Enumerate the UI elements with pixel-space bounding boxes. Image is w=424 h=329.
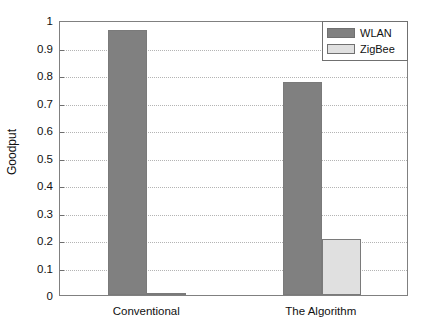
figure-canvas: Goodput 00.10.20.30.40.50.60.70.80.91 Co…	[0, 0, 424, 329]
y-axis-tick-label: 0.9	[0, 43, 53, 55]
y-axis-tick	[60, 187, 64, 188]
y-axis-tick-labels: 00.10.20.30.40.50.60.70.80.91	[0, 21, 53, 296]
y-axis-tick-label: 0.1	[0, 263, 53, 275]
x-axis-tick-label: Conventional	[113, 305, 180, 317]
legend-label-zigbee: ZigBee	[360, 44, 395, 55]
y-axis-tick-label: 0.8	[0, 70, 53, 82]
bar-wlan-0	[108, 30, 147, 295]
legend-swatch-zigbee	[327, 44, 355, 54]
plot-area	[59, 21, 408, 296]
y-axis-tick-label: 0.7	[0, 98, 53, 110]
bar-zigbee-0	[147, 293, 186, 295]
y-axis-tick	[60, 270, 64, 271]
y-axis-tick-label: 0.6	[0, 125, 53, 137]
legend-label-wlan: WLAN	[360, 28, 392, 39]
y-axis-tick	[60, 132, 64, 133]
y-axis-tick-label: 0	[0, 290, 53, 302]
y-axis-tick-label: 1	[0, 15, 53, 27]
chart-legend: WLAN ZigBee	[322, 21, 408, 61]
legend-entry: WLAN	[327, 25, 403, 41]
legend-swatch-wlan	[327, 28, 355, 38]
y-axis-tick-label: 0.3	[0, 208, 53, 220]
y-axis-tick	[60, 242, 64, 243]
legend-entry: ZigBee	[327, 41, 403, 57]
y-axis-tick	[60, 160, 64, 161]
y-axis-tick-label: 0.4	[0, 180, 53, 192]
bar-wlan-1	[283, 82, 322, 295]
x-axis-tick-labels: ConventionalThe Algorithm	[59, 301, 408, 321]
y-axis-tick	[60, 215, 64, 216]
y-axis-tick-label: 0.2	[0, 235, 53, 247]
y-axis-tick	[60, 77, 64, 78]
y-axis-tick-label: 0.5	[0, 153, 53, 165]
x-axis-tick-label: The Algorithm	[285, 305, 356, 317]
y-axis-tick	[60, 105, 64, 106]
bar-zigbee-1	[322, 239, 361, 295]
y-axis-tick	[60, 50, 64, 51]
